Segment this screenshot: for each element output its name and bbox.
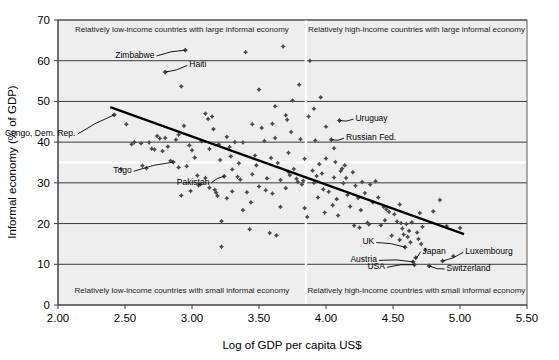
y-axis-tick-labels: 010203040506070	[37, 14, 50, 311]
x-tick-label: 3.50	[248, 312, 270, 324]
annotation-label: Pakistan	[177, 177, 210, 187]
annotation-label: Haiti	[189, 59, 206, 69]
y-tick-label: 10	[37, 258, 50, 270]
x-axis-title: Log of GDP per capita US$	[222, 339, 362, 351]
x-axis-tick-labels: 2.002.503.003.504.004.505.005.50	[47, 312, 538, 324]
x-tick-label: 5.50	[516, 312, 538, 324]
quadrant-label: Relatively high-income countries with la…	[308, 25, 525, 34]
scatter-plot-svg: 2.002.503.003.504.004.505.005.50 0102030…	[0, 0, 559, 360]
annotation-label: USA	[367, 261, 385, 271]
annotation-label: Luxembourg	[465, 246, 513, 256]
x-tick-label: 3.00	[181, 312, 203, 324]
y-axis-title: Informal economy (% of GDP)	[6, 85, 18, 239]
x-tick-label: 4.50	[382, 312, 404, 324]
annotation-label: Uruguay	[355, 113, 388, 123]
annotation-label: Switzerland	[447, 263, 491, 273]
annotation-label: Zimbabwe	[115, 50, 154, 60]
x-tick-label: 2.00	[47, 312, 69, 324]
quadrant-label: Relatively low-income countries with sma…	[75, 286, 290, 295]
y-tick-label: 0	[44, 299, 50, 311]
chart-figure: 2.002.503.003.504.004.505.005.50 0102030…	[0, 0, 559, 360]
y-tick-label: 30	[37, 177, 50, 189]
x-tick-label: 4.00	[315, 312, 337, 324]
quadrant-label: Relatively high-income countries with sm…	[308, 286, 526, 295]
annotation-label: Russian Fed.	[346, 132, 396, 142]
y-tick-label: 60	[37, 55, 50, 67]
annotation-label: Japan	[422, 246, 445, 256]
annotation-label: UK	[362, 236, 374, 246]
y-tick-label: 20	[37, 218, 50, 230]
y-tick-label: 70	[37, 14, 50, 26]
y-tick-label: 50	[37, 95, 50, 107]
x-tick-label: 2.50	[114, 312, 136, 324]
x-tick-label: 5.00	[449, 312, 471, 324]
quadrant-label: Relatively low-income countries with lar…	[75, 25, 289, 34]
annotation-label: Togo	[113, 165, 132, 175]
